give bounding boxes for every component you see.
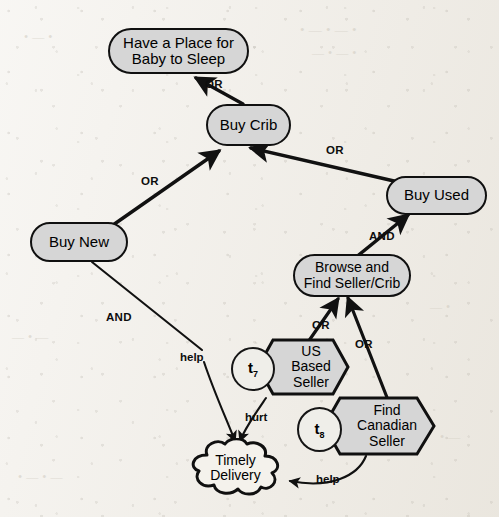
edge-label-help-ca-seller: help [316,473,340,485]
edge-label-or-top: OR [205,78,223,90]
task-marker-t7-label: t7 [248,359,258,379]
goal-buy-crib[interactable]: Buy Crib [206,104,291,146]
softgoal-label-line2: Delivery [210,467,261,483]
edge-buy-new-and-branch [92,262,202,350]
goal-label: Buy Crib [214,117,284,133]
goal-label: Buy New [43,234,115,250]
goal-label: Browse and Find Seller/Crib [298,260,406,290]
edge-label-hurt-us-seller: hurt [245,411,267,423]
edge-label-or-buy-used: OR [326,144,344,156]
softgoal-label: Timely Delivery [210,453,261,484]
edge-label-or-buy-new: OR [141,175,159,187]
edge-label-and-browse: AND [369,230,395,242]
goal-buy-used[interactable]: Buy Used [386,176,487,215]
task-marker-t7[interactable]: t7 [231,347,275,391]
goal-label-line1: Have a Place for [123,34,234,51]
edge-label-or-us-seller: OR [312,319,330,331]
goal-label: Buy Used [398,187,475,203]
goal-label-line2: Baby to Sleep [132,50,225,67]
edge-label-and-buy-new: AND [106,311,132,323]
goal-browse-and-find-seller-crib[interactable]: Browse and Find Seller/Crib [293,254,411,297]
goal-label-line1: Browse and [315,259,389,275]
edge-label-help-buy-new: help [180,351,204,363]
softgoal-timely-delivery[interactable]: Timely Delivery [183,438,288,498]
goal-buy-new[interactable]: Buy New [30,222,128,262]
edge-help-to-timely [204,362,235,441]
edge-buy-new-to-buy-crib [113,151,219,225]
task-marker-t8[interactable]: t8 [297,407,342,452]
task-label-line2: Canadian [357,417,417,433]
task-marker-t8-label: t8 [314,420,324,440]
diagram-canvas: • — • — • — • — • • — • — • — • — • — — … [0,0,499,517]
edge-buy-used-to-buy-crib [251,148,394,181]
task-label-line1: US [301,343,320,359]
task-label-line3: Seller [293,374,329,390]
task-label-line1: Find [373,402,400,418]
task-label-line3: Seller [369,433,405,449]
softgoal-label-line1: Timely [215,452,256,468]
goal-label-line2: Find Seller/Crib [304,275,400,291]
goal-label: Have a Place for Baby to Sleep [117,35,240,67]
task-label-line2: Based [291,358,331,374]
edge-label-or-ca-seller: OR [355,338,373,350]
goal-have-a-place-for-baby-to-sleep[interactable]: Have a Place for Baby to Sleep [108,28,249,74]
